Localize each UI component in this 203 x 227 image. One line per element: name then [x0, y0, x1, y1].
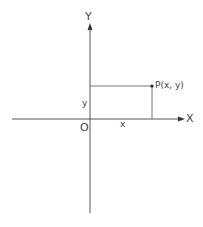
- x-coordinate-label: x: [120, 120, 125, 129]
- y-axis-arrowhead-icon: [88, 23, 93, 30]
- x-axis-arrowhead-icon: [178, 117, 185, 122]
- diagram-svg: [0, 0, 203, 227]
- origin-label: O: [80, 122, 89, 133]
- coordinate-diagram: Y X O x y P(x, y): [0, 0, 203, 227]
- point-p-label: P(x, y): [155, 81, 184, 90]
- point-p-marker: [150, 84, 153, 87]
- y-axis-label: Y: [85, 11, 92, 22]
- x-axis-label: X: [186, 113, 194, 124]
- y-coordinate-label: y: [82, 99, 87, 108]
